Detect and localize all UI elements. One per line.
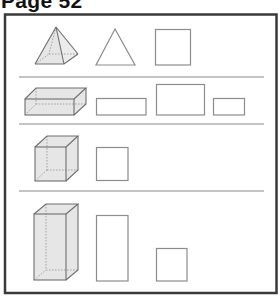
rectangular-prism-icon <box>25 88 86 115</box>
rectangle-long-face-icon <box>97 99 147 116</box>
square-face-icon <box>97 148 129 181</box>
rectangle-tall-face-icon <box>97 216 129 282</box>
rectangle-large-face-icon <box>157 85 205 116</box>
tall-rectangular-prism-icon <box>34 204 78 280</box>
rectangle-small-face-icon <box>214 99 245 116</box>
square-pyramid-icon <box>35 27 78 64</box>
triangle-face-icon <box>96 29 135 65</box>
square-face-icon <box>156 30 191 66</box>
square-face-icon <box>157 249 188 282</box>
worksheet <box>0 0 280 296</box>
cube-icon <box>35 136 78 181</box>
